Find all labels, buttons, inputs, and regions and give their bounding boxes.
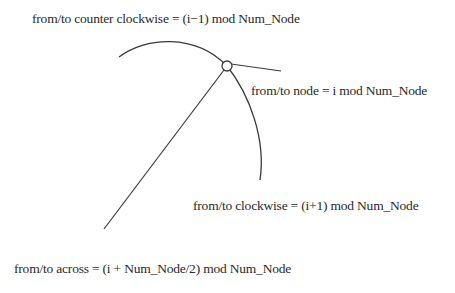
clockwise-label: from/to clockwise = (i+1) mod Num_Node	[193, 199, 418, 213]
ring-topology-diagram	[0, 0, 455, 293]
link-outward	[231, 64, 281, 71]
across-label: from/to across = (i + Num_Node/2) mod Nu…	[14, 262, 291, 276]
node-label: from/to node = i mod Num_Node	[251, 84, 427, 98]
counter-clockwise-label: from/to counter clockwise = (i−1) mod Nu…	[32, 12, 300, 26]
ring-arc	[119, 42, 261, 180]
node-circle	[222, 61, 232, 71]
